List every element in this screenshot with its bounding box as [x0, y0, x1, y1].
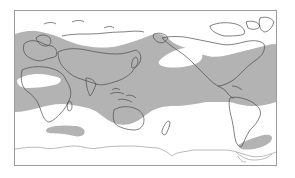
- world-map: world-distribution-map: [14, 10, 277, 166]
- map-canvas: [14, 10, 277, 166]
